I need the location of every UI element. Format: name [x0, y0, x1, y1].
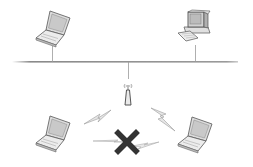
blocked-wireless-link	[93, 133, 159, 151]
laptop-icon	[36, 116, 70, 152]
wired-bus	[12, 45, 238, 79]
desktop-computer-icon	[178, 10, 210, 41]
laptop-icon	[178, 117, 212, 153]
wireless-signal-right-icon	[151, 108, 175, 131]
network-diagram	[0, 0, 253, 167]
wireless-access-point-icon	[124, 84, 132, 105]
wireless-signal-left-icon	[84, 110, 111, 124]
laptop-icon	[36, 11, 70, 47]
